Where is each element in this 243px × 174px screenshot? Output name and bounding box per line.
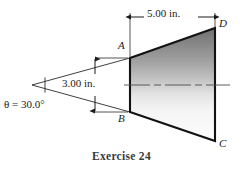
- vertex-label-a: A: [118, 40, 125, 51]
- figure-drawing: [0, 0, 243, 174]
- exercise-figure: A B C D 5.00 in. 3.00 in. θ = 30.0° Exer…: [0, 0, 243, 174]
- vertex-label-b: B: [118, 113, 125, 124]
- vertex-label-c: C: [219, 138, 226, 149]
- figure-caption: Exercise 24: [0, 150, 243, 162]
- vertex-label-d: D: [219, 18, 227, 29]
- dimension-label-side-height: 3.00 in.: [62, 78, 95, 89]
- dimension-label-top-length: 5.00 in.: [147, 8, 180, 19]
- angle-label-theta: θ = 30.0°: [4, 99, 45, 110]
- trapezoid-body: [130, 28, 215, 141]
